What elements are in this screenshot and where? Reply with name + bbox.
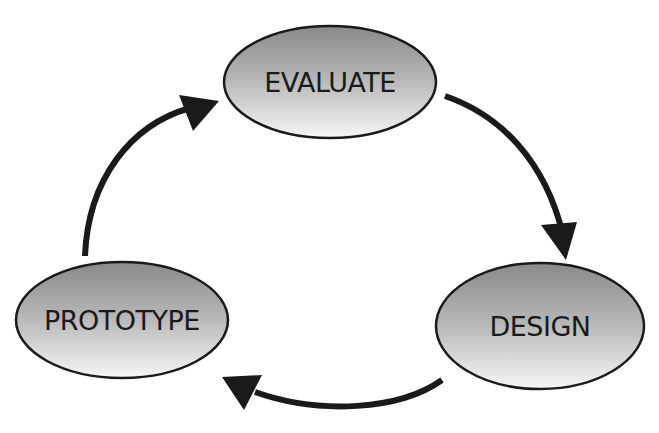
arrow-design-to-prototype [222, 375, 442, 410]
arrow-prototype-to-evaluate [85, 95, 219, 256]
node-evaluate-label: EVALUATE [264, 67, 396, 98]
cycle-diagram: EVALUATE DESIGN PROTOTYPE [0, 0, 659, 433]
node-prototype-label: PROTOTYPE [44, 305, 200, 336]
node-design-label: DESIGN [489, 311, 590, 342]
node-prototype: PROTOTYPE [16, 262, 228, 378]
arrow-evaluate-to-design [445, 96, 577, 260]
node-design: DESIGN [436, 263, 644, 389]
node-evaluate: EVALUATE [224, 26, 436, 138]
